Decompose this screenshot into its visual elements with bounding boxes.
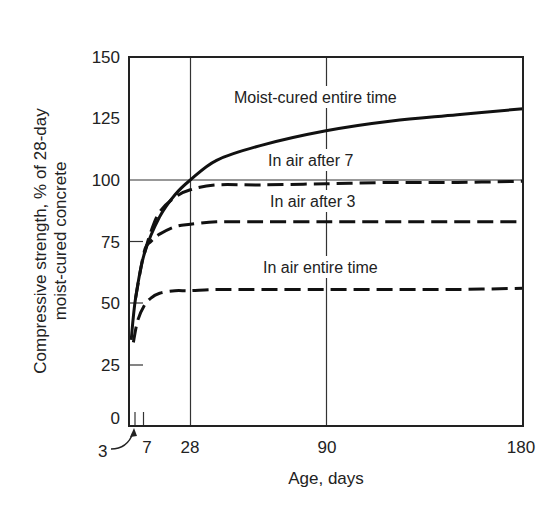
series-line-in-air-entire-time xyxy=(133,288,523,342)
y-tick-25: 25 xyxy=(101,356,120,375)
x-axis-title: Age, days xyxy=(288,469,364,488)
label-in-air-after-7: In air after 7 xyxy=(268,152,353,169)
x-tick-7: 7 xyxy=(142,438,151,457)
y-tick-100: 100 xyxy=(92,171,120,190)
curved-arrow-icon xyxy=(111,433,133,449)
y-tick-0: 0 xyxy=(111,409,120,428)
x-tick-28: 28 xyxy=(181,438,200,457)
x-tick-labels: 7 28 90 180 xyxy=(142,438,535,457)
y-tick-labels: 150 125 100 75 50 25 0 xyxy=(92,48,120,428)
x-tick-3-annotation: 3 xyxy=(98,442,107,461)
gridlines xyxy=(129,57,523,426)
y-axis-title-line1: Compressive strength, % of 28-day xyxy=(31,108,50,374)
y-tick-125: 125 xyxy=(92,109,120,128)
label-moist-cured-entire-time: Moist-cured entire time xyxy=(234,89,397,106)
x-ticks xyxy=(135,412,144,426)
y-axis-title: Compressive strength, % of 28-day moist-… xyxy=(31,108,70,374)
arrow-head-icon xyxy=(130,428,137,437)
strength-vs-age-chart: Moist-cured entire time In air after 7 I… xyxy=(0,0,557,506)
y-tick-50: 50 xyxy=(101,294,120,313)
y-axis-title-line2: moist-cured concrete xyxy=(51,162,70,321)
x-tick-90: 90 xyxy=(318,438,337,457)
y-tick-75: 75 xyxy=(101,233,120,252)
label-in-air-after-3: In air after 3 xyxy=(270,193,355,210)
label-in-air-entire-time: In air entire time xyxy=(263,259,378,276)
y-tick-150: 150 xyxy=(92,48,120,67)
x-tick-180: 180 xyxy=(507,438,535,457)
